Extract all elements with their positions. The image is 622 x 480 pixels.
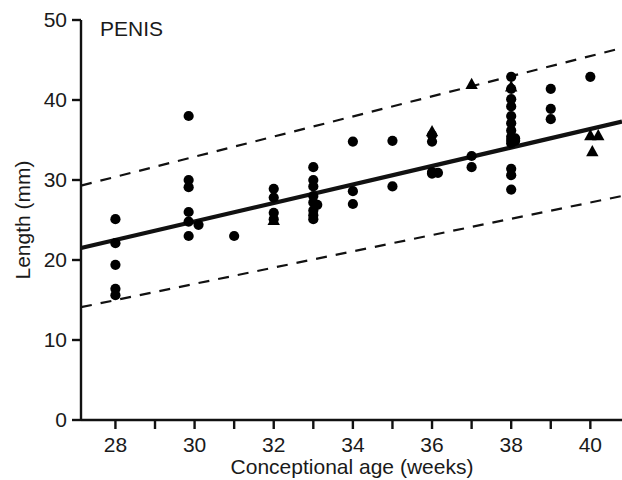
data-point-circle <box>184 217 194 227</box>
data-point-triangle <box>505 80 517 91</box>
data-point-circle <box>312 200 322 210</box>
data-point-circle <box>269 184 279 194</box>
x-tick-label: 34 <box>341 433 365 456</box>
data-point-circle <box>348 137 358 147</box>
data-point-circle <box>184 231 194 241</box>
data-point-circle <box>585 72 595 82</box>
x-tick-label: 38 <box>500 433 523 456</box>
chart-figure: 01020304050 28303234363840 PENIS Length … <box>0 0 622 480</box>
x-tick-label: 40 <box>579 433 602 456</box>
x-axis-title: Conceptional age (weeks) <box>231 455 474 478</box>
data-point-circle <box>348 199 358 209</box>
confidence-bands-group <box>81 48 622 307</box>
data-point-circle <box>546 114 556 124</box>
confidence-band-upper <box>81 48 622 186</box>
data-point-circle <box>433 168 443 178</box>
confidence-band-lower <box>81 196 622 307</box>
y-tick-label: 40 <box>44 88 67 111</box>
y-tick-label: 20 <box>44 248 67 271</box>
data-point-circle <box>110 290 120 300</box>
data-points-group <box>110 72 604 301</box>
data-point-triangle <box>465 78 477 89</box>
data-point-circle <box>193 220 203 230</box>
data-point-circle <box>308 181 318 191</box>
x-axis-tick-labels: 28303234363840 <box>104 433 602 456</box>
axes-group <box>72 20 622 429</box>
x-tick-label: 36 <box>420 433 443 456</box>
data-point-triangle <box>586 145 598 156</box>
y-axis-ticks <box>72 20 81 420</box>
data-point-circle <box>506 170 516 180</box>
data-point-circle <box>467 162 477 172</box>
y-tick-label: 50 <box>44 8 67 31</box>
y-tick-label: 0 <box>55 408 67 431</box>
data-point-circle <box>427 137 437 147</box>
data-point-circle <box>184 207 194 217</box>
data-point-circle <box>387 136 397 146</box>
data-point-circle <box>184 182 194 192</box>
panel-title: PENIS <box>100 17 163 40</box>
x-axis-ticks <box>115 420 590 429</box>
data-point-circle <box>546 84 556 94</box>
data-point-triangle <box>592 129 604 140</box>
data-point-circle <box>308 214 318 224</box>
x-tick-label: 32 <box>262 433 285 456</box>
data-point-circle <box>387 181 397 191</box>
data-point-circle <box>229 231 239 241</box>
data-point-circle <box>269 193 279 203</box>
data-point-circle <box>510 136 520 146</box>
data-point-circle <box>110 214 120 224</box>
data-point-circle <box>467 151 477 161</box>
data-point-circle <box>110 238 120 248</box>
data-point-circle <box>348 186 358 196</box>
y-axis-tick-labels: 01020304050 <box>44 8 67 431</box>
y-tick-label: 10 <box>44 328 67 351</box>
data-point-triangle <box>426 125 438 136</box>
data-point-circle <box>546 104 556 114</box>
scatter-plot-canvas: 01020304050 28303234363840 PENIS Length … <box>0 0 622 480</box>
data-point-circle <box>110 260 120 270</box>
y-axis-title: Length (mm) <box>11 160 34 279</box>
y-tick-label: 30 <box>44 168 67 191</box>
data-point-circle <box>506 185 516 195</box>
x-tick-label: 28 <box>104 433 127 456</box>
data-point-circle <box>308 162 318 172</box>
data-point-circle <box>184 111 194 121</box>
x-tick-label: 30 <box>183 433 206 456</box>
data-point-circle <box>506 101 516 111</box>
